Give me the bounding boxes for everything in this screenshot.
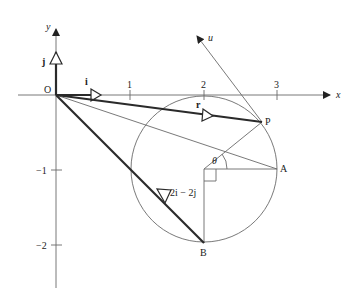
y-tick-label-minus-1: −1 bbox=[36, 165, 47, 176]
u-label: u bbox=[208, 32, 213, 43]
vector-diagram: 1 2 3 −1 −2 x y O θ u j i r 2i − 2j P A … bbox=[0, 0, 358, 306]
vector-r bbox=[56, 95, 262, 122]
j-label: j bbox=[41, 56, 45, 67]
y-axis-label: y bbox=[45, 21, 51, 32]
ob-arrowhead-icon bbox=[157, 189, 171, 203]
x-tick-label-2: 2 bbox=[201, 79, 206, 90]
r-label: r bbox=[196, 99, 201, 110]
point-P-label: P bbox=[265, 116, 271, 127]
y-tick-label-minus-2: −2 bbox=[36, 240, 47, 251]
j-arrowhead-icon bbox=[50, 52, 62, 64]
angle-theta-arc bbox=[222, 154, 227, 169]
x-tick-label-3: 3 bbox=[274, 79, 279, 90]
vector-OB bbox=[56, 95, 204, 243]
point-B-label: B bbox=[200, 247, 207, 258]
ob-label: 2i − 2j bbox=[170, 187, 196, 198]
angle-theta-label: θ bbox=[212, 155, 217, 166]
i-label: i bbox=[85, 76, 88, 87]
origin-label: O bbox=[44, 84, 51, 95]
vector-u bbox=[197, 36, 262, 122]
point-A-label: A bbox=[280, 163, 288, 174]
right-angle-marker bbox=[204, 169, 216, 181]
x-tick-label-1: 1 bbox=[127, 79, 132, 90]
r-arrowhead-icon bbox=[202, 109, 213, 121]
x-axis-label: x bbox=[335, 89, 341, 100]
